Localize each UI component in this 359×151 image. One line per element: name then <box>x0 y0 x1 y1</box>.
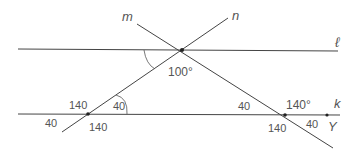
angle-left-above-left: 140 <box>69 99 87 111</box>
label-m: m <box>122 9 133 24</box>
angle-right-below-right: 40 <box>306 118 318 130</box>
label-n: n <box>232 8 239 23</box>
geometry-diagram: m n ℓ k Y 100° 140 40 40 140 40 140° 140… <box>0 0 359 151</box>
angle-right-below-left: 140 <box>268 122 286 134</box>
line-m <box>137 24 333 148</box>
angle-100: 100° <box>168 65 193 79</box>
label-l: ℓ <box>334 34 340 50</box>
line-k <box>18 114 340 115</box>
intersection-top-dot <box>180 48 184 52</box>
angle-right-above-right: 140° <box>286 98 311 112</box>
angle-left-below-left: 40 <box>45 117 57 129</box>
angle-left-above-right: 40 <box>113 100 125 112</box>
angle-right-above-left: 40 <box>238 100 250 112</box>
intersection-right-dot <box>283 113 287 117</box>
label-k: k <box>334 96 342 111</box>
intersection-left-dot <box>86 112 90 116</box>
angle-left-below-right: 140 <box>89 121 107 133</box>
point-y-dot <box>325 113 328 116</box>
angle-arc-top-left <box>144 50 155 69</box>
label-y: Y <box>328 119 338 134</box>
